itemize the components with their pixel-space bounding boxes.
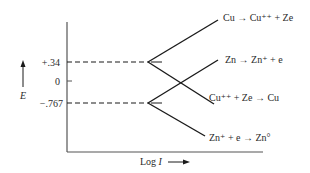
right-arrow-icon bbox=[183, 160, 190, 165]
up-arrow-icon bbox=[21, 60, 26, 67]
tick-label-zero: 0 bbox=[55, 76, 60, 87]
zn-anodic-line bbox=[148, 60, 218, 103]
reaction-label-zn-cathodic: Zn⁺ + e → Zn° bbox=[209, 132, 271, 143]
zn-cathodic-line bbox=[148, 103, 205, 136]
y-axis-label: E bbox=[19, 90, 26, 101]
reaction-label-cu-anodic: Cu → Cu⁺⁺ + Ze bbox=[223, 12, 294, 23]
evans-diagram: +.34 0 −.767 E Log I Cu → Cu⁺⁺ + Ze Zn →… bbox=[0, 0, 310, 173]
tick-label-cu: +.34 bbox=[42, 57, 60, 68]
cu-anodic-line bbox=[148, 20, 218, 62]
reaction-label-cu-cathodic: Cu⁺⁺ + Ze → Cu bbox=[209, 92, 279, 103]
tick-label-zn: −.767 bbox=[40, 98, 63, 109]
x-axis-label: Log I bbox=[140, 156, 163, 167]
reaction-label-zn-anodic: Zn → Zn⁺ + e bbox=[225, 54, 283, 65]
